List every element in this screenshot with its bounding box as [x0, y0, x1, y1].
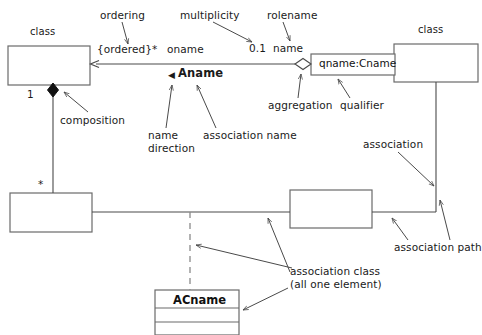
aggregation-diamond: [295, 59, 311, 70]
leader-name-direction: [166, 85, 172, 128]
adornment-multiplicity-star-top: *: [152, 43, 157, 56]
uml-diagram-canvas: class class ordering multiplicity rolena…: [0, 0, 482, 335]
diagram-vector-layer: [0, 0, 482, 335]
leader-composition: [64, 92, 88, 112]
leader-association-class-2: [268, 218, 290, 272]
label-class-top-left: class: [30, 26, 55, 39]
annotation-association-name: association name: [203, 129, 297, 142]
box-top-right-class: [394, 44, 478, 82]
leader-association: [398, 152, 434, 186]
leader-aggregation: [298, 74, 301, 98]
annotation-aggregation: aggregation: [268, 99, 333, 112]
leader-qualifier: [338, 79, 350, 98]
box-top-left-class: [8, 46, 90, 85]
leader-association-class-3: [243, 288, 288, 310]
adornment-multiplicity-star-left: *: [38, 178, 43, 191]
box-mid-left: [10, 193, 92, 232]
annotation-multiplicity: multiplicity: [180, 9, 240, 22]
annotation-name-direction: name direction: [148, 129, 195, 154]
leader-association-path-1: [392, 218, 408, 240]
label-class-top-right: class: [418, 24, 443, 37]
name-direction-triangle-icon: ◀: [168, 69, 175, 82]
annotation-rolename: rolename: [267, 9, 317, 22]
leader-rolename: [283, 22, 290, 41]
leader-association-path-2: [440, 200, 450, 240]
annotation-association-class: association class (all one element): [290, 265, 382, 290]
association-class-name: ACname: [173, 293, 226, 307]
adornment-multiplicity-right: 0.1: [249, 42, 266, 55]
qualifier-box-text: qname:Cname: [319, 57, 396, 69]
adornment-rolename-oname: oname: [167, 43, 204, 56]
leader-ordering: [122, 22, 128, 44]
leader-association-class-1: [196, 245, 292, 268]
annotation-association-path: association path: [394, 241, 482, 254]
leader-multiplicity: [213, 22, 252, 42]
annotation-association: association: [363, 138, 423, 151]
leader-association-name: [197, 85, 216, 128]
box-mid-right: [290, 190, 372, 228]
annotation-ordering: ordering: [100, 9, 145, 22]
adornment-association-name: Aname: [178, 67, 223, 80]
adornment-multiplicity-one: 1: [27, 88, 34, 101]
adornment-ordering-constraint: {ordered}: [97, 43, 152, 56]
annotation-composition: composition: [60, 114, 125, 127]
adornment-rolename-name: name: [273, 42, 303, 55]
annotation-qualifier: qualifier: [340, 99, 384, 112]
composition-path: [48, 83, 59, 193]
